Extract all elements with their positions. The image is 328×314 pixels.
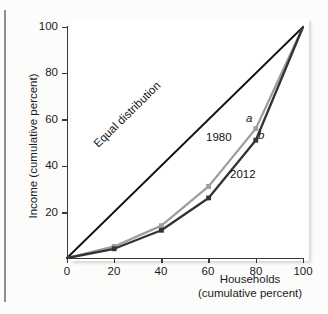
- plot-lines: [0, 0, 328, 314]
- data-point-2012-40: [159, 228, 164, 233]
- data-point-1980-60: [206, 184, 211, 189]
- point-label-a: a: [246, 113, 252, 125]
- series-label-1980: 1980: [206, 132, 232, 144]
- data-point-2012-60: [206, 196, 211, 201]
- point-label-b: b: [258, 130, 264, 142]
- data-point-2012-20: [112, 246, 117, 251]
- series-label-2012: 2012: [230, 169, 256, 181]
- data-point-1980-40: [159, 223, 164, 228]
- lorenz-curve-figure: 100 80 60 40 20 0 20 40 60 80 100 Income…: [0, 0, 328, 314]
